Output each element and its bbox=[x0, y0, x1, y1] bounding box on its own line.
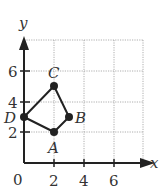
point-b-label: B bbox=[74, 109, 86, 127]
coordinate-plane: y x 0 2 4 6 2 4 6 A B C D bbox=[0, 0, 165, 192]
y-axis-arrow-icon bbox=[19, 36, 29, 50]
y-axis-label: y bbox=[18, 14, 28, 32]
x-tick-label: 4 bbox=[79, 172, 89, 190]
point-d bbox=[20, 113, 28, 121]
y-tick-label: 6 bbox=[8, 63, 18, 81]
x-tick-label: 6 bbox=[109, 172, 119, 190]
point-c bbox=[50, 82, 58, 90]
point-a-label: A bbox=[46, 139, 59, 157]
y-axis bbox=[19, 36, 29, 163]
point-b bbox=[65, 113, 73, 121]
point-d-label: D bbox=[3, 109, 16, 127]
x-axis-label: x bbox=[150, 154, 159, 172]
grid bbox=[24, 40, 143, 163]
point-c-label: C bbox=[48, 64, 60, 82]
x-tick-label: 2 bbox=[49, 172, 59, 190]
quadrilateral-abcd bbox=[24, 86, 69, 132]
origin-label: 0 bbox=[13, 171, 23, 189]
x-axis bbox=[24, 158, 155, 168]
point-a bbox=[50, 128, 58, 136]
